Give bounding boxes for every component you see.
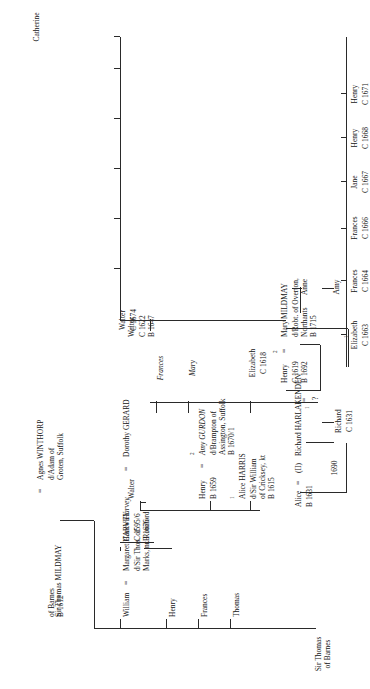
- connector-tick-henry: [166, 619, 167, 629]
- gen4-child-3-name: Jane: [350, 158, 359, 206]
- gen2-amy-gurdon-detail: d/Brampton of Assington, Suffolk B 1670/…: [209, 340, 236, 455]
- gen3-walter-detail: C 1622 B 1647: [138, 287, 156, 337]
- connector-carew-children-spine: [150, 402, 318, 403]
- gen1-mildmay-detail: of Barnes B 1612: [47, 517, 65, 617]
- gen3-carew-marriage-equals: =: [122, 467, 131, 471]
- gen4-child-2-detail: C 1666: [361, 204, 370, 252]
- connector-henry-marriage-right: [300, 344, 320, 345]
- connector-upper-children-spine: [150, 320, 286, 321]
- gen2-amy-gurdon-name: Amy GURDON: [198, 360, 207, 455]
- root-person: Sir Thomas of Barnes: [296, 625, 350, 683]
- gen4-amy-name: Amy: [332, 267, 341, 307]
- connector-richard-drop: [322, 422, 334, 423]
- gen4-marriage-year: 1690: [330, 451, 339, 485]
- gen2-alice-ordinal: 1: [229, 496, 235, 499]
- connector-upper-child-tick-3: [114, 118, 120, 119]
- gen2-frances-name: Frances: [200, 562, 209, 617]
- gen1-winthorp-name: Agnes WINTHORP: [36, 370, 45, 480]
- connector-william-drop: [144, 548, 172, 549]
- connector-thomas-tick-alice: [250, 501, 251, 511]
- connector-tick-william: [120, 619, 121, 629]
- connector-upper-rail: [120, 37, 121, 321]
- connector-children-rail: [346, 37, 347, 367]
- connector-tick-elizabeth-g3: [250, 401, 251, 413]
- gen4-richard-name: Richard: [334, 397, 343, 445]
- gen4-richard-detail: C 1631: [345, 397, 354, 445]
- gen3-elizabeth-name: Elizabeth: [248, 334, 257, 392]
- connector-harlakenden-span: [346, 443, 347, 493]
- connector-upper-child-tick-0: [114, 268, 120, 269]
- gen4-child-2-name: Frances: [350, 204, 359, 252]
- gen3-elizabeth-detail: C 1618: [259, 334, 268, 392]
- connector-mildmay-drop: [286, 328, 348, 329]
- connector-upper-tick-walter: [150, 319, 151, 331]
- gen3-henry-ordinal-1: 1: [304, 406, 310, 409]
- gen4-child-5-detail: C 1671: [361, 70, 370, 118]
- gen2-alice-harris-detail: d/Sir William of Cricksey, kt B 1615: [249, 399, 276, 499]
- connector-gen2-spine: [94, 628, 316, 629]
- gen4-alice-detail: B 1631: [305, 459, 314, 507]
- connector-tick-frances-g3: [156, 401, 157, 413]
- gen4-child-3-detail: C 1667: [361, 158, 370, 206]
- gen2-henry-name: Henry: [168, 567, 177, 617]
- connector-child-tick-5: [341, 93, 347, 94]
- connector-gen1-drop: [60, 520, 94, 521]
- gen3-first-wife-unknown-mark: ?: [311, 386, 320, 400]
- connector-mildmay-span: [348, 329, 349, 367]
- gen2-alice-harris-name: Alice HARRIS: [238, 404, 247, 499]
- connector-upper-child-tick-5: [114, 36, 120, 37]
- connector-child-tick-0: [341, 334, 347, 335]
- connector-thomas-tick-henry: [210, 501, 211, 511]
- connector-gen1-span: [94, 521, 95, 629]
- gen4-harlakenden-name: Richard HARLAKENDEN: [294, 338, 303, 456]
- connector-carew-drop: [120, 542, 154, 543]
- connector-harlakenden-left: [300, 492, 346, 493]
- connector-henry-marriage-span: [320, 345, 321, 391]
- connector-thomas-spine: [140, 510, 260, 511]
- gen4-child-1-detail: C 1664: [361, 257, 370, 305]
- connector-walter-stem: [140, 502, 146, 503]
- gen4-alice-marriage-equals: =: [294, 481, 303, 485]
- gen2-henry2-detail: B 1659: [209, 449, 218, 499]
- connector-upper-child-tick-1: [114, 218, 120, 219]
- connector-tick-frances: [198, 619, 199, 629]
- connector-tick-thomas: [230, 619, 231, 629]
- gen4-anne-name: Anne: [300, 267, 309, 307]
- connector-tick-mary-g3: [188, 401, 189, 413]
- gen4-child-5-name: Henry: [350, 70, 359, 118]
- gen1-marriage-equals: =: [36, 489, 45, 493]
- gen2-william-marriage-equals: =: [122, 581, 131, 585]
- gen3-carew-harvey-name: Carew Harvey: [122, 465, 131, 541]
- root-person-label: Sir Thomas of Barnes: [314, 625, 332, 683]
- connector-anne-rail: [300, 287, 301, 313]
- gen4-child-1-name: Frances: [350, 257, 359, 305]
- gen2-henry2-name: Henry: [198, 454, 207, 499]
- pedigree-chart: Sir Thomas of Barnes Sir Thomas MILDMAY …: [0, 0, 370, 689]
- connector-child-tick-3: [341, 181, 347, 182]
- gen2-amy-ordinal: 2: [189, 452, 195, 455]
- gen4-child-4-name: Henry: [350, 114, 359, 162]
- gen2-henry2-marriage-equals: =: [198, 464, 207, 468]
- connector-upper-child-tick-2: [114, 168, 120, 169]
- connector-william-tick: [120, 547, 121, 551]
- connector-harlakenden-right: [306, 442, 334, 443]
- gen4-child-0-detail: C 1663: [361, 311, 370, 359]
- connector-child-tick-4: [341, 137, 347, 138]
- connector-henry-marriage-left: [286, 390, 320, 391]
- connector-amy-tick: [322, 288, 334, 289]
- gen3-henry-name: Henry: [280, 338, 289, 383]
- gen4-alice-name: Alice: [294, 471, 303, 507]
- gen4-child-0-name: Elizabeth: [350, 311, 359, 359]
- gen3-carew-harvey-detail: C 1595/6 B 1676: [133, 471, 151, 541]
- rotated-chart-wrapper: Sir Thomas of Barnes Sir Thomas MILDMAY …: [0, 0, 370, 689]
- connector-child-tick-1: [341, 280, 347, 281]
- connector-upper-child-tick-4: [114, 68, 120, 69]
- gen3-dorothy-gerard-name: Dorothy GERARD: [122, 347, 131, 457]
- gen2-thomas-name: Thomas: [232, 562, 241, 617]
- gen1-winthorp-detail: d/Adam of Groten, Suffolk: [47, 360, 65, 480]
- gen4-child-4-detail: C 1668: [361, 114, 370, 162]
- gen4-harlakenden-prefix: (II): [294, 455, 303, 473]
- gen3-catherine-name: Catherine: [32, 0, 41, 54]
- gen3-frances-name: Frances: [156, 342, 165, 394]
- gen3-mary-name: Mary: [188, 342, 197, 394]
